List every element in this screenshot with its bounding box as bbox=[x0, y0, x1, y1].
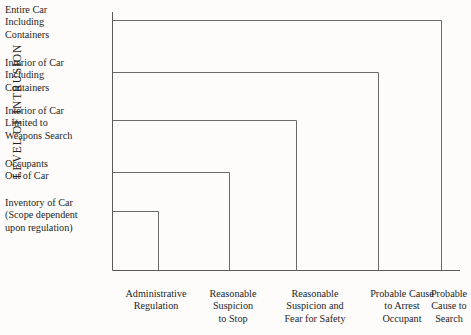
step-probable-cause-arrest bbox=[113, 73, 379, 271]
x-tick-line: Fear for Safety bbox=[266, 313, 364, 325]
x-tick-line: Probable bbox=[420, 288, 471, 300]
x-tick-line: Reasonable bbox=[266, 288, 364, 300]
x-tick-line: to Stop bbox=[194, 313, 272, 325]
step-probable-cause-search bbox=[113, 21, 442, 271]
x-tick-label-reasonable-suspicion-fear-safety: Reasonable Suspicion and Fear for Safety bbox=[266, 288, 364, 325]
x-tick-line: Regulation bbox=[106, 300, 206, 312]
x-tick-label-administrative-regulation: Administrative Regulation bbox=[106, 288, 206, 313]
x-tick-line: Suspicion bbox=[194, 300, 272, 312]
x-tick-label-probable-cause-search: Probable Cause to Search bbox=[420, 288, 471, 325]
x-tick-line: Administrative bbox=[106, 288, 206, 300]
x-tick-line: Search bbox=[420, 313, 471, 325]
x-tick-line: Suspicion and bbox=[266, 300, 364, 312]
x-tick-label-reasonable-suspicion-stop: Reasonable Suspicion to Stop bbox=[194, 288, 272, 325]
step-reasonable-suspicion-to-stop bbox=[113, 173, 230, 271]
step-administrative-regulation bbox=[113, 212, 159, 271]
x-tick-line: Reasonable bbox=[194, 288, 272, 300]
step-reasonable-suspicion-fear-safety bbox=[113, 121, 297, 271]
intrusion-level-step-chart: LEVEL OF INTRUSION Entire Car Including … bbox=[0, 0, 471, 335]
chart-plot-area bbox=[0, 0, 471, 335]
x-tick-line: Cause to bbox=[420, 300, 471, 312]
